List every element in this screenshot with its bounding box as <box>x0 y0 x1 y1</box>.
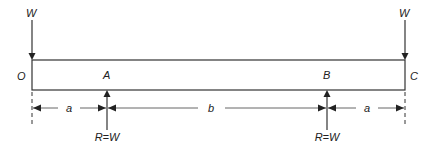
reaction-label-a: R=W <box>95 131 121 143</box>
arrowhead-down-icon <box>402 53 409 60</box>
reaction-arrow-b <box>324 90 331 130</box>
reaction-label-b: R=W <box>315 131 341 143</box>
point-label-b: B <box>323 69 330 81</box>
dimension-b <box>108 105 326 112</box>
load-arrow-left <box>29 20 36 60</box>
dimension-label-b: b <box>208 102 214 114</box>
beam-diagram: W W O A B C R=W R=W a b <box>0 0 436 151</box>
beam <box>32 60 405 90</box>
load-label-left: W <box>26 7 38 19</box>
point-label-o: O <box>17 70 26 82</box>
dimension-label-a-left: a <box>66 102 72 114</box>
point-label-a: A <box>102 69 110 81</box>
arrowhead-down-icon <box>29 53 36 60</box>
load-label-right: W <box>399 7 411 19</box>
point-label-c: C <box>410 70 418 82</box>
arrowhead-up-icon <box>324 90 331 97</box>
load-arrow-right <box>402 20 409 60</box>
arrowhead-up-icon <box>104 90 111 97</box>
reaction-arrow-a <box>104 90 111 130</box>
dimension-label-a-right: a <box>364 102 370 114</box>
